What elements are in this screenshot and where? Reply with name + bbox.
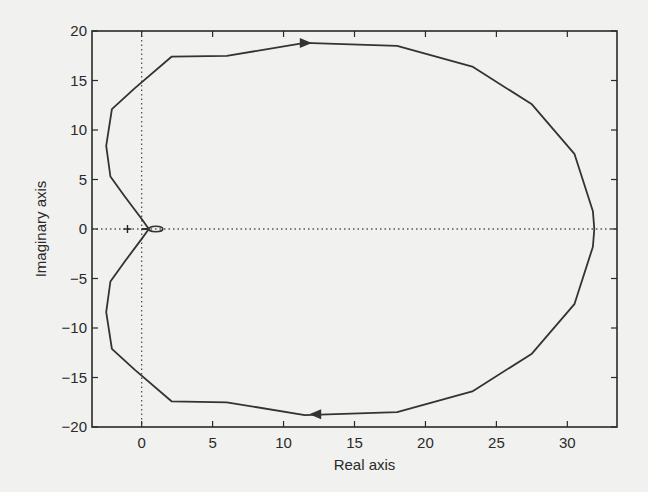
y-tick-label: −15 xyxy=(62,369,87,386)
y-tick-label: −5 xyxy=(70,270,87,287)
arrow-left-icon xyxy=(309,409,321,419)
x-tick-label: 5 xyxy=(208,434,216,451)
y-tick-label: 5 xyxy=(79,171,87,188)
y-tick-label: 0 xyxy=(79,220,87,237)
nyquist-figure: 051015202530−20−15−10−505101520Real axis… xyxy=(0,0,648,492)
nyquist-curve-lower xyxy=(106,229,594,415)
x-tick-label: 15 xyxy=(346,434,363,451)
nyquist-plot: 051015202530−20−15−10−505101520Real axis… xyxy=(0,0,648,492)
y-tick-label: −10 xyxy=(62,319,87,336)
x-tick-label: 20 xyxy=(417,434,434,451)
y-tick-label: 15 xyxy=(70,72,87,89)
y-tick-label: −20 xyxy=(62,418,87,435)
x-tick-label: 30 xyxy=(559,434,576,451)
y-tick-label: 20 xyxy=(70,22,87,39)
arrow-right-icon xyxy=(300,38,312,48)
y-axis-label: Imaginary axis xyxy=(32,181,49,278)
x-tick-label: 25 xyxy=(488,434,505,451)
nyquist-curve-upper xyxy=(106,43,594,229)
x-tick-label: 0 xyxy=(137,434,145,451)
x-axis-label: Real axis xyxy=(334,456,396,473)
x-tick-label: 10 xyxy=(275,434,292,451)
y-tick-label: 10 xyxy=(70,121,87,138)
